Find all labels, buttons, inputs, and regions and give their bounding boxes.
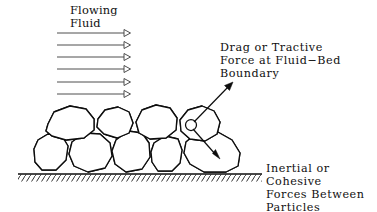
- drag-force-line-3: Boundary: [220, 67, 279, 80]
- flowing-fluid-line-1: Flowing: [70, 3, 118, 17]
- particle: [97, 107, 133, 138]
- particle: [46, 106, 94, 140]
- flow-arrow: [57, 30, 131, 37]
- figure-canvas: Flowing Fluid Drag or Tractive Force at …: [0, 0, 377, 212]
- inertial-force-line-1: Inertial or: [266, 162, 330, 175]
- inertial-force-line-2: Cohesive: [266, 175, 322, 188]
- inertial-force-line-4: Particles: [266, 201, 320, 212]
- drag-force-line-2: Force at Fluid−Bed: [220, 54, 341, 67]
- flow-arrow: [57, 66, 131, 73]
- flow-arrow: [57, 42, 131, 49]
- flowing-fluid-label: Flowing Fluid: [70, 3, 118, 30]
- flow-arrow-group: [57, 30, 131, 98]
- inertial-force-label: Inertial or Cohesive Forces Between Part…: [266, 162, 364, 212]
- flowing-fluid-line-2: Fluid: [70, 16, 101, 30]
- particle: [136, 105, 177, 139]
- flow-arrow: [57, 91, 131, 98]
- sediment-bed-diagram: Flowing Fluid Drag or Tractive Force at …: [0, 0, 377, 212]
- drag-force-line-1: Drag or Tractive: [220, 41, 323, 54]
- particle-vertical-hatch: [151, 136, 182, 171]
- flow-arrow: [57, 54, 131, 61]
- drag-force-label: Drag or Tractive Force at Fluid−Bed Boun…: [220, 41, 341, 80]
- flow-arrow: [57, 79, 131, 86]
- bed-ground-line: [18, 174, 262, 182]
- inertial-force-line-3: Forces Between: [266, 188, 364, 201]
